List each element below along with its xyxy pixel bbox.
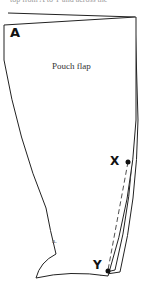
point-y-dot xyxy=(106,269,111,274)
pattern-diagram xyxy=(0,0,149,283)
point-a-label: A xyxy=(10,25,20,40)
sub-label: a. xyxy=(52,237,57,245)
point-x-label: X xyxy=(110,154,119,168)
point-y-label: Y xyxy=(93,258,102,272)
front-pattern-outline xyxy=(4,17,136,278)
piece-title: Pouch flap xyxy=(52,61,91,71)
point-x-dot xyxy=(126,160,131,165)
